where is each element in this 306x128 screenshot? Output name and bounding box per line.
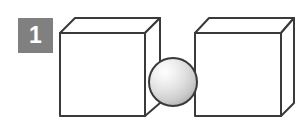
- right-cube: [195, 18, 294, 116]
- sphere-body: [149, 58, 197, 106]
- left-cube-front-face: [60, 33, 145, 116]
- figure-illustration: 1: [0, 0, 306, 128]
- panel-number-badge: 1: [18, 18, 53, 53]
- right-cube-top-face: [195, 18, 294, 33]
- right-cube-front-face: [195, 33, 281, 116]
- figure-panel: 1: [0, 0, 306, 128]
- badge-number-label: 1: [29, 22, 42, 48]
- left-cube-top-face: [60, 18, 160, 33]
- right-cube-right-face: [281, 18, 294, 116]
- left-cube: [60, 18, 160, 116]
- sphere: [149, 58, 197, 106]
